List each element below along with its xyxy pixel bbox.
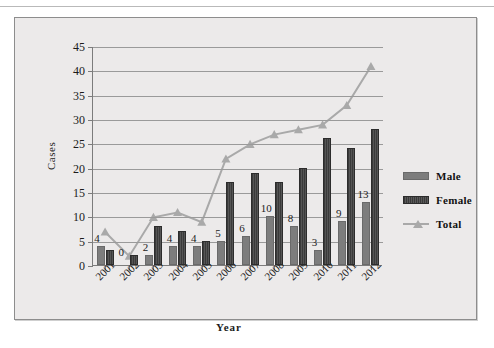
total-marker — [173, 208, 182, 216]
bar-male — [362, 202, 370, 265]
y-axis-tick-label: 5 — [79, 234, 85, 249]
male-data-label: 10 — [261, 202, 272, 214]
bar-male — [169, 246, 177, 265]
y-axis-tick-label: 15 — [73, 186, 85, 201]
bar-male — [217, 241, 225, 265]
y-axis-tick — [88, 144, 93, 145]
gridline — [93, 96, 383, 97]
legend-item-female[interactable]: Female — [403, 188, 472, 212]
plot-area: 0510152025303540452001420020200322004420… — [92, 47, 382, 266]
gridline — [93, 47, 383, 48]
total-line-swatch-icon — [403, 220, 429, 228]
gridline — [93, 193, 383, 194]
male-data-label: 5 — [215, 227, 221, 239]
chart-frame: Cases 0510152025303540452001420020200322… — [14, 17, 477, 320]
y-axis-tick — [88, 47, 93, 48]
y-axis-tick-label: 30 — [73, 113, 85, 128]
bar-female — [251, 173, 259, 265]
male-swatch-icon — [403, 172, 429, 180]
gridline — [93, 71, 383, 72]
y-axis-tick-label: 20 — [73, 161, 85, 176]
male-data-label: 8 — [288, 212, 294, 224]
legend-item-label: Female — [436, 194, 472, 206]
chart-legend: MaleFemaleTotal — [403, 164, 472, 236]
male-data-label: 13 — [357, 188, 368, 200]
bar-male — [97, 246, 105, 265]
bar-female — [299, 168, 307, 265]
bar-female — [154, 226, 162, 265]
gridline — [93, 169, 383, 170]
legend-item-label: Male — [436, 170, 461, 182]
y-axis-tick — [88, 120, 93, 121]
bar-female — [106, 250, 114, 265]
female-swatch-icon — [403, 196, 429, 204]
bar-male — [242, 236, 250, 265]
bar-male — [314, 250, 322, 265]
y-axis-tick — [88, 266, 93, 267]
y-axis-tick — [88, 71, 93, 72]
y-axis-tick — [88, 193, 93, 194]
legend-item-male[interactable]: Male — [403, 164, 472, 188]
bar-male — [290, 226, 298, 265]
male-data-label: 4 — [191, 232, 197, 244]
male-data-label: 0 — [119, 246, 125, 258]
legend-item-total[interactable]: Total — [403, 212, 472, 236]
gridline — [93, 120, 383, 121]
male-data-label: 4 — [167, 232, 173, 244]
y-axis-tick — [88, 169, 93, 170]
y-axis-tick-label: 40 — [73, 64, 85, 79]
y-axis-tick-label: 25 — [73, 137, 85, 152]
y-axis-tick — [88, 217, 93, 218]
bar-male — [338, 221, 346, 265]
bar-male — [193, 246, 201, 265]
bar-male — [145, 255, 153, 265]
chart-page: Cases 0510152025303540452001420020200322… — [0, 0, 494, 348]
y-axis-tick — [88, 242, 93, 243]
total-marker — [101, 227, 110, 235]
x-axis-title: Year — [216, 321, 242, 333]
male-data-label: 3 — [312, 236, 318, 248]
total-marker — [366, 62, 375, 70]
page-top-rule — [0, 6, 494, 7]
male-data-label: 4 — [94, 232, 100, 244]
bar-female — [323, 138, 331, 265]
bar-female — [275, 182, 283, 265]
total-marker — [221, 154, 230, 162]
bar-female — [202, 241, 210, 265]
bar-female — [371, 129, 379, 265]
bar-female — [130, 255, 138, 265]
bar-female — [347, 148, 355, 265]
male-data-label: 9 — [336, 207, 342, 219]
male-data-label: 2 — [143, 241, 149, 253]
y-axis-tick — [88, 96, 93, 97]
y-axis-tick-label: 45 — [73, 40, 85, 55]
y-axis-title: Cases — [45, 142, 57, 170]
bar-female — [178, 231, 186, 265]
y-axis-tick-label: 35 — [73, 88, 85, 103]
y-axis-tick-label: 10 — [73, 210, 85, 225]
y-axis-tick-label: 0 — [79, 259, 85, 274]
legend-item-label: Total — [436, 218, 462, 230]
bar-female — [226, 182, 234, 265]
male-data-label: 6 — [239, 222, 245, 234]
gridline — [93, 144, 383, 145]
bar-male — [266, 216, 274, 265]
